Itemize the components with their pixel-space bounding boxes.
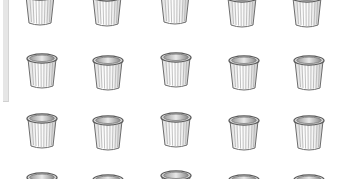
grid-item-1-1[interactable] bbox=[90, 53, 126, 93]
grid-item-2-3[interactable] bbox=[226, 113, 262, 153]
wastebasket-icon bbox=[158, 168, 194, 179]
wastebasket-icon bbox=[289, 0, 325, 30]
grid-item-0-3[interactable] bbox=[224, 0, 260, 30]
grid-item-0-2[interactable] bbox=[157, 0, 193, 27]
wastebasket-icon bbox=[158, 50, 194, 90]
grid-item-0-0[interactable] bbox=[22, 0, 58, 28]
wastebasket-icon bbox=[22, 0, 58, 28]
grid-item-0-1[interactable] bbox=[89, 0, 125, 29]
grid-item-2-4[interactable] bbox=[291, 113, 327, 153]
wastebasket-icon bbox=[291, 53, 327, 93]
grid-item-0-4[interactable] bbox=[289, 0, 325, 30]
icon-grid bbox=[0, 0, 344, 179]
wastebasket-icon bbox=[291, 113, 327, 153]
wastebasket-icon bbox=[24, 51, 60, 91]
grid-item-2-0[interactable] bbox=[24, 111, 60, 151]
wastebasket-icon bbox=[226, 172, 262, 179]
grid-item-1-4[interactable] bbox=[291, 53, 327, 93]
grid-item-3-3[interactable] bbox=[226, 172, 262, 179]
wastebasket-icon bbox=[89, 0, 125, 29]
wastebasket-icon bbox=[24, 111, 60, 151]
wastebasket-icon bbox=[158, 110, 194, 150]
grid-item-3-1[interactable] bbox=[90, 172, 126, 179]
wastebasket-icon bbox=[226, 53, 262, 93]
wastebasket-icon bbox=[90, 172, 126, 179]
wastebasket-icon bbox=[226, 113, 262, 153]
grid-item-2-1[interactable] bbox=[90, 113, 126, 153]
wastebasket-icon bbox=[291, 172, 327, 179]
grid-item-1-0[interactable] bbox=[24, 51, 60, 91]
icon-view-pane bbox=[0, 0, 344, 179]
grid-item-3-2[interactable] bbox=[158, 168, 194, 179]
grid-item-3-4[interactable] bbox=[291, 172, 327, 179]
wastebasket-icon bbox=[90, 53, 126, 93]
grid-item-1-3[interactable] bbox=[226, 53, 262, 93]
grid-item-2-2[interactable] bbox=[158, 110, 194, 150]
grid-item-1-2[interactable] bbox=[158, 50, 194, 90]
wastebasket-icon bbox=[90, 113, 126, 153]
grid-item-3-0[interactable] bbox=[24, 170, 60, 179]
wastebasket-icon bbox=[157, 0, 193, 27]
wastebasket-icon bbox=[24, 170, 60, 179]
wastebasket-icon bbox=[224, 0, 260, 30]
